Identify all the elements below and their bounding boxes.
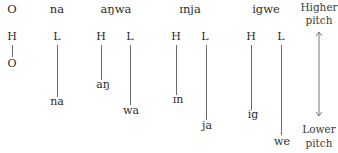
word-anwa: aŋwa	[101, 4, 132, 16]
pitch-scale-arrow-icon	[312, 30, 326, 120]
tone-label-inja-h: H	[171, 31, 181, 42]
syllable-o: O	[7, 58, 16, 69]
association-line-na-l	[57, 45, 58, 97]
association-line-anwa-l	[130, 45, 131, 105]
syllable-wa: wa	[123, 105, 139, 116]
association-line-inja-l	[206, 45, 207, 120]
association-line-igwe-l	[281, 45, 282, 135]
tone-label-na-l: L	[53, 31, 60, 42]
lower-pitch-label-line1: Lower	[302, 124, 336, 135]
higher-pitch-label-line1: Higher	[300, 2, 337, 13]
syllable-we: we	[274, 136, 290, 147]
word-o: O	[7, 4, 16, 16]
word-igwe: igwe	[252, 4, 280, 16]
association-line-igwe-h	[251, 45, 252, 110]
tone-label-anwa-l: L	[126, 31, 133, 42]
tone-label-igwe-l: L	[277, 31, 284, 42]
syllable-ja: ja	[202, 120, 212, 131]
syllable-na: na	[50, 96, 64, 107]
tone-label-anwa-h: H	[96, 31, 106, 42]
word-na: na	[50, 4, 64, 16]
syllable-in: ɪn	[173, 94, 184, 105]
higher-pitch-label-line2: pitch	[306, 15, 333, 26]
association-line-inja-h	[176, 45, 177, 95]
association-line-anwa-h	[101, 45, 102, 80]
word-inja: ɪnja	[179, 4, 201, 16]
tone-label-inja-l: L	[201, 31, 208, 42]
syllable-ig: ig	[248, 109, 259, 120]
association-line-o-h	[12, 45, 13, 57]
syllable-an: aŋ	[96, 79, 110, 90]
tone-label-o-h: H	[7, 31, 17, 42]
tone-label-igwe-h: H	[246, 31, 256, 42]
lower-pitch-label-line2: pitch	[306, 138, 333, 149]
